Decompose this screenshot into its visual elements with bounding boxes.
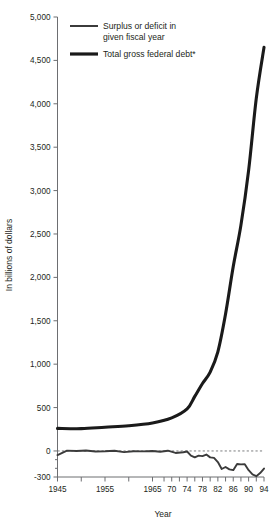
x-tick-label-0: 1945 (48, 485, 67, 494)
y-tick-label-6: 2,000 (30, 273, 51, 282)
x-tick-label-2: 1955 (96, 485, 115, 494)
y-tick-label-7: 1,500 (30, 317, 51, 326)
chart-figure: 5,0004,5004,0003,5003,0002,5002,0001,500… (0, 0, 270, 523)
y-tick-label-8: 1,000 (30, 360, 51, 369)
x-tick-label-16: 90 (244, 485, 254, 494)
x-tick-label-14: 86 (229, 485, 239, 494)
x-tick-label-6: 70 (167, 485, 177, 494)
x-tick-label-4: 1965 (143, 485, 162, 494)
y-tick-label-1: 4,500 (30, 56, 51, 65)
legend-label-1: Total gross federal debt* (103, 49, 196, 59)
legend-label-0: Surplus or deficit in (103, 21, 176, 31)
x-tick-label-8: 74 (183, 485, 193, 494)
y-tick-label-2: 4,000 (30, 100, 51, 109)
legend-label-0-line2: given fiscal year (103, 32, 165, 42)
y-tick-label-11: -300 (34, 473, 51, 482)
x-tick-label-18: 94 (259, 485, 269, 494)
x-tick-label-10: 78 (198, 485, 208, 494)
y-tick-label-3: 3,500 (30, 143, 51, 152)
y-tick-label-10: 0 (46, 447, 51, 456)
y-tick-label-5: 2,500 (30, 230, 51, 239)
x-axis-title: Year (154, 509, 171, 519)
federal-debt-line-chart: 5,0004,5004,0003,5003,0002,5002,0001,500… (0, 0, 270, 523)
y-tick-label-9: 500 (37, 404, 51, 413)
x-tick-label-12: 82 (213, 485, 223, 494)
y-tick-label-4: 3,000 (30, 187, 51, 196)
y-tick-label-0: 5,000 (30, 13, 51, 22)
y-axis-title: In billions of dollars (4, 219, 14, 291)
chart-background (0, 0, 270, 523)
